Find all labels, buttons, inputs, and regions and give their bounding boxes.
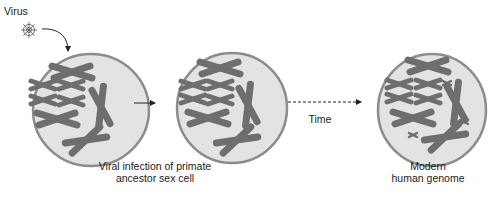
infection-caption: Viral infection of primate ancestor sex … [80,160,230,184]
virus-icon [21,22,37,38]
post-infection-cell [177,53,287,163]
infection-caption-line1: Viral infection of primate [80,160,230,172]
virus-label: Virus [4,5,28,17]
modern-caption-line1: Modern [378,160,478,172]
modern-genome-cell [378,54,486,166]
infection-caption-line2: ancestor sex cell [80,172,230,184]
time-label: Time [300,113,340,125]
modern-caption: Modern human genome [378,160,478,184]
modern-caption-line2: human genome [378,172,478,184]
infected-cell [31,54,149,166]
infection-arrow [42,29,68,51]
